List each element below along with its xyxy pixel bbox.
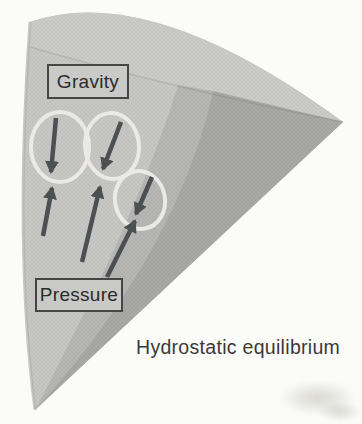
pressure-label-box: Pressure [35,278,123,312]
gravity-label-box: Gravity [47,64,129,99]
pressure-label: Pressure [40,284,118,306]
figure: Gravity Pressure Hydrostatic equilibrium [0,0,362,424]
gravity-label: Gravity [57,71,119,93]
figure-caption: Hydrostatic equilibrium [136,336,340,359]
